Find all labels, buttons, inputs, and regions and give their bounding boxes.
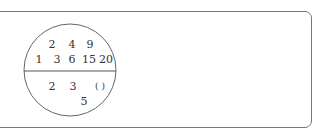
top-row2-value: 1 (36, 53, 43, 66)
top-row2-value: 20 (99, 53, 113, 66)
top-row1-value: 2 (49, 38, 56, 51)
bottom-row2-value: 5 (81, 95, 88, 108)
top-row1-value: 4 (69, 38, 76, 51)
top-row2-value: 6 (69, 53, 76, 66)
top-row1-value: 9 (87, 38, 94, 51)
blank-answer-slot: ( ) (95, 81, 105, 91)
top-row2-value: 15 (82, 53, 96, 66)
bottom-row1-value: 2 (49, 80, 56, 93)
top-row2-value: 3 (54, 53, 61, 66)
divided-circle-diagram: 2 4 9 1 3 6 15 20 2 3 ( ) 5 (0, 0, 324, 136)
bottom-row1-value: 3 (70, 80, 77, 93)
